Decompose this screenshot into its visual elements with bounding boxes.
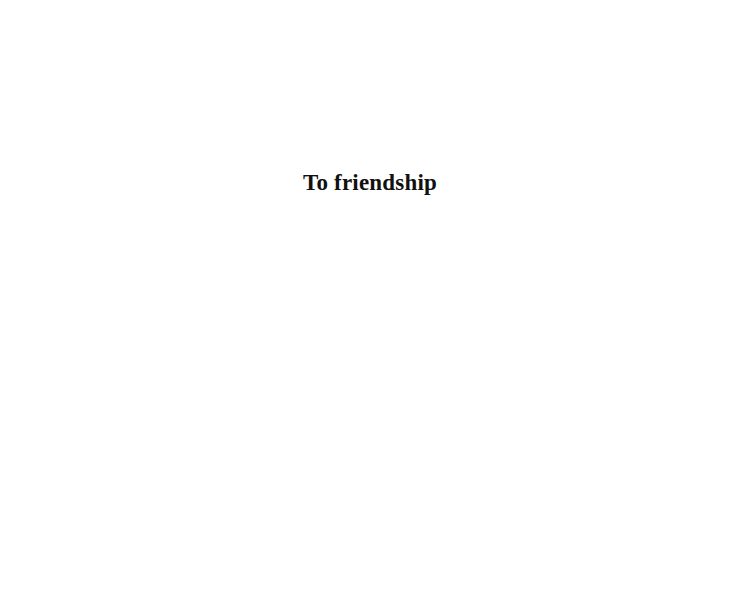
dedication-text: To friendship (0, 170, 740, 196)
document-page: To friendship (0, 0, 740, 615)
